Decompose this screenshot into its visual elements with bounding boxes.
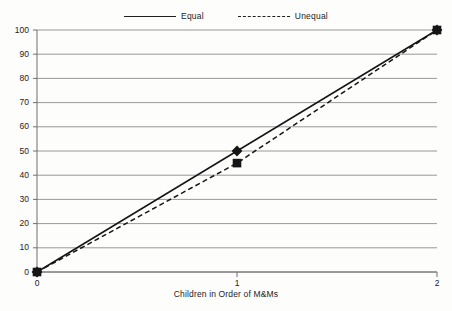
y-tick-label: 10 [5, 243, 29, 252]
y-tick-label: 90 [5, 50, 29, 59]
y-tick-label: 50 [5, 147, 29, 156]
y-tick-label: 70 [5, 98, 29, 107]
y-tick-label: 40 [5, 171, 29, 180]
chart-container: Equal Unequal 0102030405060708090100 012… [0, 0, 452, 311]
y-tick-label: 30 [5, 195, 29, 204]
y-tick-label: 100 [5, 26, 29, 35]
x-tick-label: 0 [27, 279, 47, 288]
y-tick-label: 60 [5, 122, 29, 131]
y-tick-label: 80 [5, 74, 29, 83]
y-tick-label: 0 [5, 268, 29, 277]
x-tick-label: 2 [427, 279, 447, 288]
x-axis-title: Children in Order of M&Ms [0, 289, 452, 299]
chart-plot-area [0, 0, 452, 311]
y-tick-label: 20 [5, 219, 29, 228]
x-tick-label: 1 [227, 279, 247, 288]
